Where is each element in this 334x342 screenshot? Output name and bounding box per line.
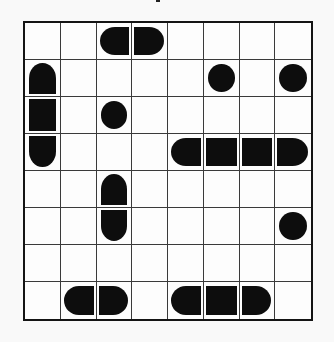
puzzle-board (23, 21, 313, 321)
grid-cell[interactable] (61, 245, 97, 282)
grid-cell[interactable] (240, 97, 276, 134)
ship-segment-bottom-icon (29, 136, 56, 167)
grid-cell[interactable] (168, 134, 204, 171)
ship-segment-right-icon (277, 138, 308, 166)
top-mark (156, 0, 160, 2)
grid-cell[interactable] (132, 23, 168, 60)
grid-cell[interactable] (97, 97, 133, 134)
ship-segment-hmid-icon (206, 138, 237, 166)
grid-cell[interactable] (240, 23, 276, 60)
grid-cell[interactable] (132, 60, 168, 97)
grid-cell[interactable] (61, 134, 97, 171)
grid-cell[interactable] (132, 97, 168, 134)
ship-segment-left-icon (100, 27, 130, 55)
grid-cell[interactable] (61, 23, 97, 60)
grid-cell[interactable] (25, 23, 61, 60)
grid-cell[interactable] (240, 282, 276, 319)
grid-cell[interactable] (168, 282, 204, 319)
grid-cell[interactable] (132, 134, 168, 171)
ship-segment-left-icon (171, 138, 201, 166)
grid-cell[interactable] (97, 134, 133, 171)
grid-cell[interactable] (204, 23, 240, 60)
grid-cell[interactable] (275, 245, 311, 282)
grid-cell[interactable] (168, 60, 204, 97)
ship-segment-top-icon (101, 174, 128, 205)
grid-cell[interactable] (132, 282, 168, 319)
ship-segment-left-icon (64, 286, 94, 315)
grid-cell[interactable] (25, 171, 61, 208)
grid-cell[interactable] (275, 97, 311, 134)
grid-cell[interactable] (275, 60, 311, 97)
grid-cell[interactable] (132, 171, 168, 208)
grid-cell[interactable] (240, 60, 276, 97)
grid-cell[interactable] (240, 171, 276, 208)
grid-cell[interactable] (132, 245, 168, 282)
grid-cell[interactable] (97, 60, 133, 97)
grid-cell[interactable] (25, 208, 61, 245)
ship-segment-bottom-icon (101, 210, 128, 241)
ship-segment-top-icon (29, 63, 56, 94)
grid-cell[interactable] (204, 60, 240, 97)
ship-segment-hmid-icon (206, 286, 237, 315)
grid-cell[interactable] (168, 171, 204, 208)
grid-cell[interactable] (97, 208, 133, 245)
grid-cell[interactable] (275, 134, 311, 171)
grid-cell[interactable] (25, 60, 61, 97)
grid-cell[interactable] (275, 171, 311, 208)
grid-cell[interactable] (240, 208, 276, 245)
grid-cell[interactable] (25, 134, 61, 171)
grid-cell[interactable] (275, 208, 311, 245)
grid-cell[interactable] (97, 171, 133, 208)
grid-cell[interactable] (204, 245, 240, 282)
ship-segment-right-icon (242, 286, 272, 315)
ship-segment-hmid-icon (242, 138, 273, 166)
grid-cell[interactable] (168, 97, 204, 134)
grid-cell[interactable] (61, 60, 97, 97)
grid-cell[interactable] (61, 282, 97, 319)
ship-segment-sub-icon (208, 64, 235, 92)
grid-cell[interactable] (204, 134, 240, 171)
grid-cell[interactable] (204, 282, 240, 319)
grid-cell[interactable] (97, 245, 133, 282)
grid-cell[interactable] (25, 97, 61, 134)
grid-cell[interactable] (97, 23, 133, 60)
grid-cell[interactable] (25, 282, 61, 319)
grid-cell[interactable] (240, 245, 276, 282)
grid-cell[interactable] (61, 171, 97, 208)
grid-cell[interactable] (204, 171, 240, 208)
grid-cell[interactable] (61, 208, 97, 245)
ship-segment-right-icon (134, 27, 164, 55)
grid-cell[interactable] (240, 134, 276, 171)
grid-cell[interactable] (25, 245, 61, 282)
grid-cell[interactable] (168, 23, 204, 60)
grid-cell[interactable] (132, 208, 168, 245)
grid-cell[interactable] (204, 97, 240, 134)
ship-segment-right-icon (99, 286, 129, 315)
grid-cell[interactable] (61, 97, 97, 134)
grid-cell[interactable] (275, 23, 311, 60)
grid-cell[interactable] (168, 245, 204, 282)
ship-segment-left-icon (171, 286, 201, 315)
grid-cell[interactable] (97, 282, 133, 319)
ship-segment-sub-icon (101, 101, 128, 129)
ship-segment-sub-icon (279, 212, 307, 240)
ship-segment-vmid-icon (29, 99, 56, 131)
grid-cell[interactable] (168, 208, 204, 245)
ship-segment-sub-icon (279, 64, 307, 92)
grid-cell[interactable] (204, 208, 240, 245)
grid-cell[interactable] (275, 282, 311, 319)
